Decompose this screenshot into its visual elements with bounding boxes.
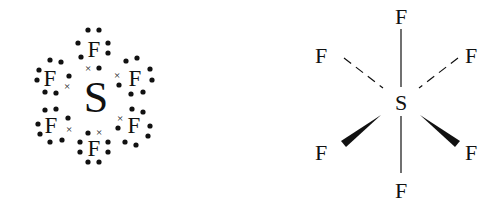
svg-text:×: × bbox=[96, 126, 102, 138]
octahedral-structure: S F F F F F F bbox=[315, 4, 477, 203]
fluorine-lower-right-3d: F bbox=[465, 140, 477, 165]
fluorine-lower-right: F bbox=[128, 113, 141, 138]
central-atom-sulfur-3d: S bbox=[395, 90, 407, 115]
bond-lower-left-wedge bbox=[341, 115, 381, 147]
lewis-structure: S F F F F F F bbox=[34, 27, 154, 164]
svg-text:×: × bbox=[66, 123, 72, 135]
fluorine-upper-right: F bbox=[129, 66, 142, 91]
bond-lower-right-wedge bbox=[420, 115, 460, 147]
fluorine-upper-left-3d: F bbox=[315, 43, 327, 68]
central-atom-sulfur: S bbox=[84, 73, 108, 122]
sf6-svg: S F F F F F F bbox=[0, 0, 498, 206]
fluorine-top-3d: F bbox=[395, 4, 407, 29]
svg-text:×: × bbox=[114, 69, 120, 81]
fluorine-top: F bbox=[88, 37, 101, 62]
fluorine-upper-left: F bbox=[44, 66, 57, 91]
fluorine-bottom-3d: F bbox=[395, 178, 407, 203]
svg-text:×: × bbox=[117, 112, 123, 124]
svg-text:×: × bbox=[85, 62, 91, 74]
svg-text:×: × bbox=[64, 80, 70, 92]
fluorine-bottom: F bbox=[88, 136, 101, 161]
fluorine-upper-right-3d: F bbox=[465, 43, 477, 68]
bond-upper-left-dashed bbox=[344, 58, 383, 88]
sf6-diagram: S F F F F F F bbox=[0, 0, 498, 206]
bond-upper-right-dashed bbox=[419, 58, 458, 88]
fluorine-lower-left-3d: F bbox=[315, 140, 327, 165]
fluorine-lower-left: F bbox=[45, 113, 58, 138]
